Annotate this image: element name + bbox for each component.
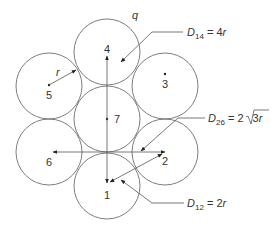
- q-label: q: [132, 9, 139, 21]
- d12-symbol: D: [187, 197, 195, 209]
- conductor-bundle-diagram: 4 7 1 5 6 3 2 r q D14 = 4r D26 = 23r D12…: [0, 0, 279, 230]
- d14-equals: = 4: [204, 26, 223, 38]
- d26-label: D26 = 23r: [208, 112, 264, 127]
- d26-var: r: [259, 112, 264, 124]
- conductor-label-7: 7: [114, 113, 120, 125]
- conductor-label-5: 5: [46, 89, 52, 101]
- d26-symbol: D: [208, 112, 216, 124]
- d12-equals: = 2: [204, 197, 223, 209]
- radius-label: r: [56, 66, 61, 78]
- d12-label: D12 = 2r: [187, 197, 228, 212]
- radius-arrow: [49, 70, 76, 85]
- d26-leader: [141, 118, 205, 151]
- conductor-label-4: 4: [104, 43, 110, 55]
- conductor-label-2: 2: [162, 155, 168, 167]
- d12-var: r: [223, 197, 228, 209]
- d12-arrow: [110, 154, 162, 182]
- conductor-label-6: 6: [46, 156, 52, 168]
- conductor-label-3: 3: [162, 78, 168, 90]
- d14-leader: [121, 32, 183, 62]
- conductor-label-1: 1: [104, 189, 110, 201]
- d14-symbol: D: [187, 26, 195, 38]
- d14-label: D14 = 4r: [187, 26, 228, 41]
- d26-equals: = 2: [225, 112, 244, 124]
- center-dot-3: [164, 73, 166, 75]
- d14-var: r: [223, 26, 228, 38]
